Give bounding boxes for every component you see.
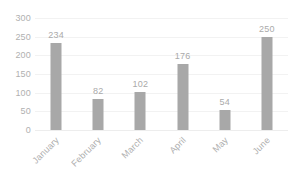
bar[interactable] — [93, 99, 104, 130]
bar[interactable] — [135, 92, 146, 130]
y-axis-tick-label: 0 — [26, 126, 31, 135]
x-axis-tick-label-text: April — [167, 135, 188, 156]
x-axis-tick: February — [77, 131, 119, 184]
bar[interactable] — [219, 110, 230, 130]
y-axis-tick-label: 50 — [21, 107, 31, 116]
y-axis-tick-label: 300 — [15, 14, 31, 23]
x-axis-tick: May — [204, 131, 246, 184]
x-axis-tick-label-text: March — [120, 135, 145, 160]
y-axis: 050100150200250300 — [0, 18, 31, 130]
x-axis-tick: June — [246, 131, 288, 184]
x-axis: JanuaryFebruaryMarchAprilMayJune — [35, 131, 288, 184]
x-axis-tick: March — [119, 131, 161, 184]
bar-value-label: 82 — [93, 87, 103, 96]
x-axis-tick-label-text: May — [210, 135, 230, 155]
bar[interactable] — [51, 43, 62, 130]
bar-slot: 54 — [204, 18, 246, 130]
y-axis-tick-label: 250 — [15, 32, 31, 41]
y-axis-tick-label: 150 — [15, 70, 31, 79]
bar-value-label: 54 — [220, 98, 230, 107]
bar[interactable] — [261, 37, 272, 130]
y-axis-tick-label: 100 — [15, 88, 31, 97]
y-axis-tick-label: 200 — [15, 51, 31, 60]
plot-area: 2348210217654250 — [35, 18, 288, 130]
bar-chart: 050100150200250300 2348210217654250 Janu… — [0, 0, 291, 184]
x-axis-tick: January — [35, 131, 77, 184]
bar-slot: 82 — [77, 18, 119, 130]
x-axis-tick-label-text: June — [251, 135, 272, 156]
x-axis-tick-label-text: January — [30, 135, 61, 166]
bar-value-label: 234 — [48, 31, 64, 40]
bar-slot: 250 — [246, 18, 288, 130]
bar-slot: 234 — [35, 18, 77, 130]
bar[interactable] — [177, 64, 188, 130]
bar-value-label: 102 — [133, 80, 149, 89]
bar-value-label: 250 — [259, 25, 275, 34]
bar-slot: 176 — [162, 18, 204, 130]
x-axis-tick: April — [162, 131, 204, 184]
bar-value-label: 176 — [175, 52, 191, 61]
